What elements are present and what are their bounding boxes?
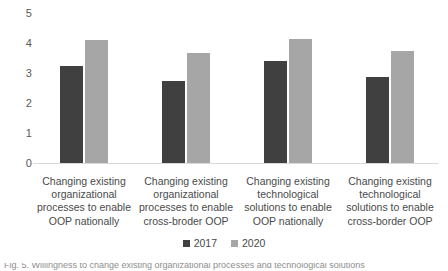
bar-2020-group-1 [85, 40, 108, 163]
category-label-1: Changing existing organizational process… [33, 170, 135, 232]
legend-label-2017: 2017 [194, 238, 217, 249]
plot-area: 5 4 3 2 1 0 [0, 0, 448, 170]
bar-2017-group-4 [366, 77, 389, 163]
bars-layer [0, 0, 448, 170]
bar-2017-group-2 [162, 81, 185, 163]
legend-swatch-icon [231, 240, 238, 247]
legend-item-2017[interactable]: 2017 [183, 238, 217, 249]
clipped-figure-caption: Fig. 5. Willingness to change existing o… [0, 263, 448, 271]
legend-label-2020: 2020 [242, 238, 265, 249]
bar-2020-group-3 [289, 39, 312, 163]
bar-chart: 5 4 3 2 1 0 Changing existing organizati… [0, 0, 448, 271]
category-label-3: Changing existing technological solution… [237, 170, 339, 232]
chart-legend: 2017 2020 [0, 238, 448, 249]
legend-item-2020[interactable]: 2020 [231, 238, 265, 249]
bar-2020-group-2 [187, 53, 210, 163]
x-axis-category-labels: Changing existing organizational process… [33, 170, 441, 232]
caption-text: Fig. 5. Willingness to change existing o… [0, 263, 448, 271]
category-label-4: Changing existing technological solution… [339, 170, 441, 232]
bar-2020-group-4 [391, 51, 414, 163]
legend-swatch-icon [183, 240, 190, 247]
category-label-2: Changing existing organizational process… [135, 170, 237, 232]
bar-2017-group-3 [264, 61, 287, 163]
bar-2017-group-1 [60, 66, 83, 163]
